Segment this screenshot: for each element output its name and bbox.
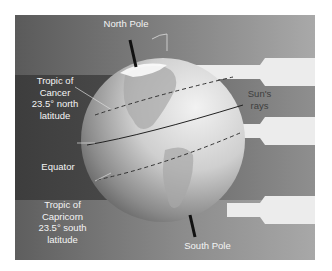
sun-rays-label: Sun's rays [237, 88, 282, 111]
tilt-angle-arc [152, 34, 167, 51]
north-pole-label: North Pole [91, 18, 161, 30]
tropic-cancer-label: Tropic of Cancer 23.5° north latitude [19, 75, 91, 121]
equator-label: Equator [33, 161, 83, 173]
diagram-panel: North Pole Tropic of Cancer 23.5° north … [15, 15, 315, 260]
tropic-capricorn-label: Tropic of Capricorn 23.5° south latitude [25, 199, 100, 245]
axis-north [130, 40, 136, 67]
south-pole-label: South Pole [175, 240, 240, 252]
arrow-icon [255, 58, 315, 224]
axis-south [190, 215, 195, 237]
